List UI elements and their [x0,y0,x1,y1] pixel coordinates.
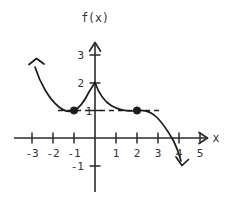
x-tick-label-1: 1 [113,147,120,160]
y-tick-label-2: 2 [77,77,84,90]
function-graph-figure: -3 -2 -1 1 2 3 4 5 3 2 1 -1 f(x) x [0,0,232,207]
x-tick-label-5: 5 [197,147,204,160]
y-tick-label-neg1: -1 [71,160,84,173]
axes-group [14,43,208,193]
x-axis-label: x [213,131,220,145]
x-tick-label-3: 3 [155,147,162,160]
local-minimum-point [70,107,77,114]
y-axis-label: f(x) [81,11,109,25]
y-tick-label-3: 3 [77,49,84,62]
x-tick-label-2: 2 [134,147,141,160]
x-tick-label-neg3: -3 [25,147,38,160]
x-tick-label-4: 4 [176,147,183,160]
inflection-point [133,107,140,114]
left-branch-arrow-icon [29,59,44,65]
x-tick-label-neg2: -2 [46,147,59,160]
graph-canvas: -3 -2 -1 1 2 3 4 5 3 2 1 -1 f(x) x [0,0,232,207]
y-tick-label-1: 1 [85,105,92,118]
x-tick-label-neg1: -1 [67,147,80,160]
